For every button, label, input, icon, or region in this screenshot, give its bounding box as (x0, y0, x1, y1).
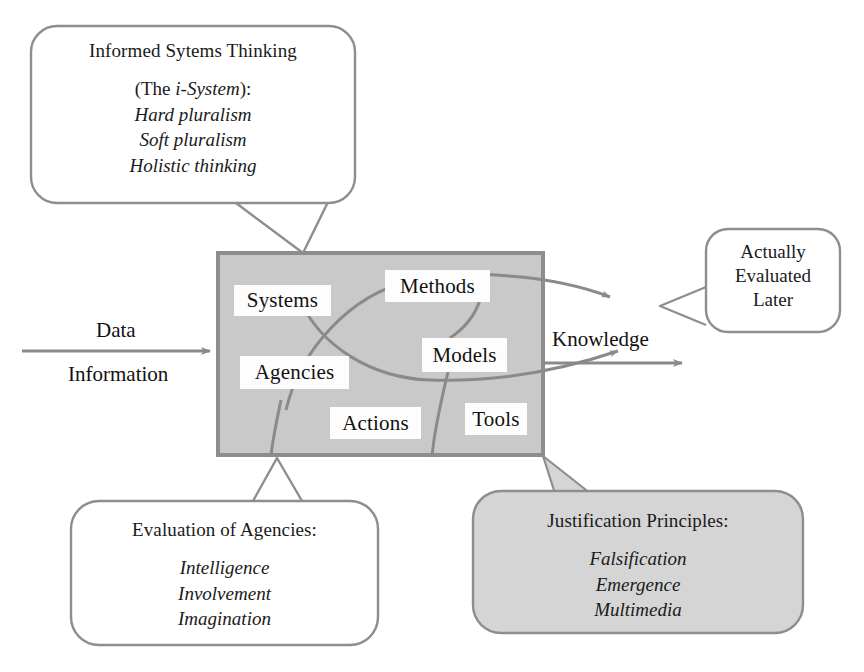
callout-tail-eoa (253, 458, 302, 501)
spacer (473, 533, 803, 546)
actually-evaluated-later-content: Actually Evaluated Later (706, 240, 840, 312)
chip-models[interactable]: Models (422, 338, 507, 372)
chip-agencies[interactable]: Agencies (240, 356, 349, 389)
input-label-information: Information (68, 362, 168, 387)
eoa-item-2: Involvement (71, 581, 378, 606)
diagram-canvas: Informed Sytems Thinking (The i-System):… (0, 0, 864, 672)
jp-item-2: Emergence (473, 572, 803, 597)
chip-tools[interactable]: Tools (465, 403, 527, 435)
ael-line-1: Actually (706, 240, 840, 264)
ael-line-2: Evaluated (706, 264, 840, 288)
jp-item-3: Multimedia (473, 597, 803, 622)
subtitle-i-system: i-System (175, 78, 239, 99)
eoa-item-1: Intelligence (71, 555, 378, 580)
chip-actions[interactable]: Actions (330, 407, 421, 439)
chip-methods[interactable]: Methods (385, 270, 490, 302)
evaluation-of-agencies-title: Evaluation of Agencies: (71, 517, 378, 542)
informed-systems-thinking-content: Informed Sytems Thinking (The i-System):… (31, 38, 355, 178)
spacer (31, 63, 355, 76)
informed-systems-thinking-title: Informed Sytems Thinking (31, 38, 355, 63)
chip-systems[interactable]: Systems (234, 285, 331, 316)
spacer (71, 542, 378, 555)
callout-tail-ael (660, 287, 706, 325)
eoa-item-3: Imagination (71, 606, 378, 631)
ist-item-1: Hard pluralism (31, 102, 355, 127)
informed-systems-thinking-subtitle: (The i-System): (31, 76, 355, 101)
jp-item-1: Falsification (473, 546, 803, 571)
evaluation-of-agencies-content: Evaluation of Agencies: Intelligence Inv… (71, 517, 378, 632)
callout-tail-ist (236, 202, 328, 253)
subtitle-prefix: (The (135, 78, 176, 99)
ael-line-3: Later (706, 288, 840, 312)
ist-item-3: Holistic thinking (31, 153, 355, 178)
justification-principles-title: Justification Principles: (473, 508, 803, 533)
ist-item-2: Soft pluralism (31, 127, 355, 152)
justification-principles-content: Justification Principles: Falsification … (473, 508, 803, 623)
output-label-knowledge: Knowledge (552, 327, 649, 352)
subtitle-suffix: ): (240, 78, 252, 99)
input-label-data: Data (96, 318, 136, 343)
